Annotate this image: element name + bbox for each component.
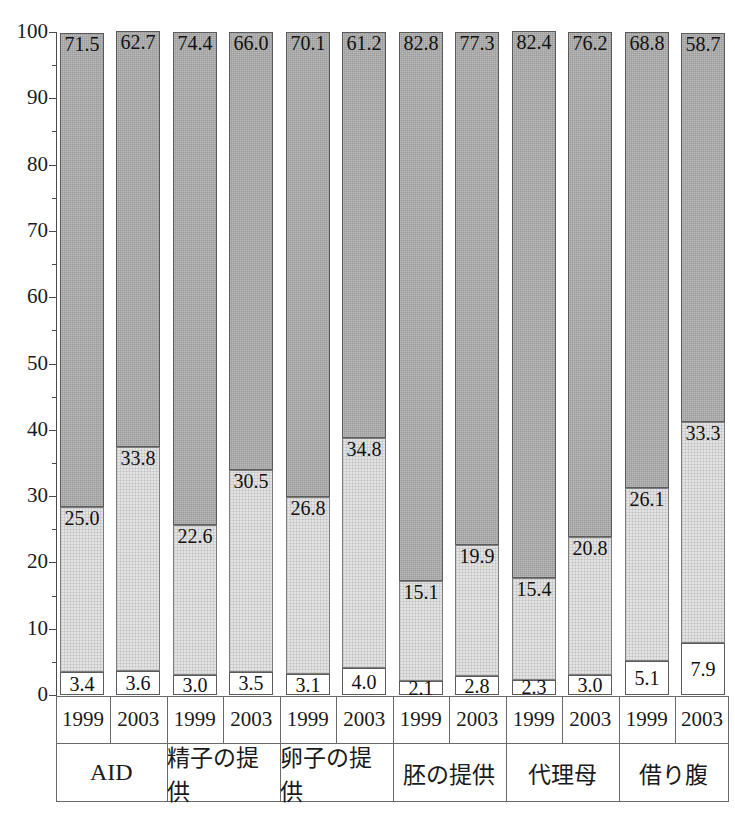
group-label: 胚の提供 (393, 743, 506, 802)
group-label: 代理母 (506, 743, 619, 802)
y-tick-major (49, 430, 56, 431)
bar-value-label: 3.4 (70, 674, 95, 694)
bar-segment-middle: 33.3 (681, 422, 725, 643)
year-label-2003: 2003 (223, 696, 280, 743)
bar-value-label: 25.0 (65, 508, 100, 666)
bar-segment-middle: 19.9 (455, 545, 499, 677)
year-label-1999: 1999 (280, 696, 337, 743)
group-label: AID (56, 743, 167, 802)
bar-segment-middle: 20.8 (568, 537, 612, 675)
bar-segment-bottom: 3.4 (60, 672, 104, 695)
bar-segment-bottom: 3.1 (286, 674, 330, 695)
y-tick-major (49, 496, 56, 497)
bar-stack: 7.933.358.7 (681, 32, 725, 695)
bar-value-label: 3.1 (296, 675, 321, 695)
bar-value-label: 4.0 (352, 672, 377, 692)
table-rule-vertical (675, 696, 676, 743)
year-label-1999: 1999 (506, 696, 563, 743)
bar-value-label: 3.0 (183, 675, 208, 695)
year-label-1999: 1999 (393, 696, 450, 743)
bar-segment-bottom: 3.0 (173, 675, 217, 695)
table-rule-vertical (449, 696, 450, 743)
bar-segment-bottom: 2.8 (455, 676, 499, 695)
bar-segment-middle: 22.6 (173, 525, 217, 675)
y-tick-major (49, 165, 56, 166)
bar-value-label: 20.8 (573, 538, 608, 668)
bar-segment-top: 61.2 (342, 32, 386, 438)
bar-value-label: 58.7 (686, 34, 721, 415)
bar-stack: 3.530.566.0 (229, 32, 273, 695)
year-label-2003: 2003 (675, 696, 729, 743)
bar-value-label: 77.3 (460, 33, 495, 537)
bar-value-label: 34.8 (347, 439, 382, 662)
bar-value-label: 15.1 (404, 582, 439, 674)
category-label-table: 1999200319992003199920031999200319992003… (56, 696, 729, 802)
bar-value-label: 26.8 (291, 498, 326, 668)
y-tick-label: 30 (27, 485, 48, 506)
bar-value-label: 5.1 (635, 668, 660, 688)
bar-segment-top: 77.3 (455, 32, 499, 544)
bar-segment-middle: 25.0 (60, 507, 104, 673)
y-tick-label: 20 (27, 551, 48, 572)
year-label-2003: 2003 (562, 696, 619, 743)
bar-stack: 3.126.870.1 (286, 32, 330, 695)
bar-value-label: 70.1 (291, 33, 326, 490)
bar-value-label: 15.4 (517, 579, 552, 673)
y-tick-label: 40 (27, 419, 48, 440)
year-label-2003: 2003 (110, 696, 167, 743)
bar-segment-middle: 15.4 (512, 578, 556, 680)
y-tick-label: 100 (17, 21, 49, 42)
group-label: 精子の提供 (167, 743, 280, 802)
table-rule-vertical (562, 696, 563, 743)
year-label-2003: 2003 (449, 696, 506, 743)
bar-value-label: 7.9 (691, 659, 716, 679)
plot-area: 3.425.071.53.633.862.73.022.674.43.530.5… (56, 32, 728, 695)
bar-value-label: 76.2 (573, 33, 608, 530)
bar-segment-bottom: 3.5 (229, 672, 273, 695)
bar-stack: 4.034.861.2 (342, 32, 386, 695)
y-tick-major (49, 98, 56, 99)
bar-segment-top: 58.7 (681, 33, 725, 422)
y-tick-label: 70 (27, 220, 48, 241)
group-label: 卵子の提供 (280, 743, 393, 802)
bar-segment-middle: 15.1 (399, 581, 443, 681)
bar-segment-bottom: 5.1 (625, 661, 669, 695)
bar-stack: 2.819.977.3 (455, 32, 499, 695)
bar-segment-middle: 34.8 (342, 438, 386, 669)
y-tick-major (49, 297, 56, 298)
bar-value-label: 71.5 (65, 34, 100, 500)
chart-title (0, 0, 735, 3)
bar-segment-top: 68.8 (625, 32, 669, 488)
bar-stack: 2.115.182.8 (399, 32, 443, 695)
bar-segment-top: 74.4 (173, 32, 217, 525)
bar-segment-middle: 26.8 (286, 497, 330, 675)
bar-segment-top: 82.4 (512, 31, 556, 577)
table-rule-vertical (110, 696, 111, 743)
bar-segment-top: 70.1 (286, 32, 330, 497)
year-label-2003: 2003 (336, 696, 393, 743)
bar-value-label: 62.7 (121, 32, 156, 440)
bar-segment-bottom: 3.0 (568, 675, 612, 695)
bar-segment-bottom: 2.1 (399, 681, 443, 695)
table-rule-vertical (336, 696, 337, 743)
bar-value-label: 22.6 (178, 526, 213, 668)
bar-segment-bottom: 2.3 (512, 680, 556, 695)
bar-stack: 3.633.862.7 (116, 32, 160, 695)
bar-stack: 2.315.482.4 (512, 32, 556, 695)
bar-stack: 3.425.071.5 (60, 32, 104, 695)
year-label-1999: 1999 (619, 696, 676, 743)
bar-segment-middle: 30.5 (229, 470, 273, 672)
bar-segment-top: 71.5 (60, 33, 104, 507)
bar-value-label: 3.0 (578, 675, 603, 695)
y-tick-major (49, 562, 56, 563)
bar-segment-bottom: 4.0 (342, 668, 386, 695)
bar-value-label: 3.6 (126, 673, 151, 693)
bar-value-label: 68.8 (630, 33, 665, 481)
y-tick-major (49, 629, 56, 630)
bar-segment-top: 66.0 (229, 32, 273, 470)
y-tick-label: 60 (27, 286, 48, 307)
bar-value-label: 2.3 (522, 677, 547, 697)
bar-value-label: 2.8 (465, 676, 490, 696)
bar-value-label: 66.0 (234, 33, 269, 463)
bar-segment-top: 82.8 (399, 32, 443, 581)
